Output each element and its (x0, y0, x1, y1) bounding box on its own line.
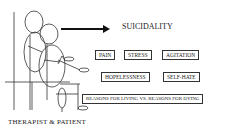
factor-box-agitation: AGITATION (162, 50, 199, 60)
factor-box-hopelessness: HOPELESSNESS (101, 72, 150, 82)
factor-box-pain: PAIN (95, 50, 115, 60)
arrow-right-icon (61, 25, 110, 33)
therapist-patient-figure (0, 0, 232, 137)
figure-caption: THERAPIST & PATIENT (8, 118, 86, 126)
factor-box-self-hate: SELF-HATE (163, 72, 200, 82)
diagram-title: SUICIDALITY (122, 22, 173, 31)
factor-box-reasons: REASONS FOR LIVING VS. REASONS FOR DYING (82, 94, 203, 104)
factor-box-stress: STRESS (124, 50, 152, 60)
